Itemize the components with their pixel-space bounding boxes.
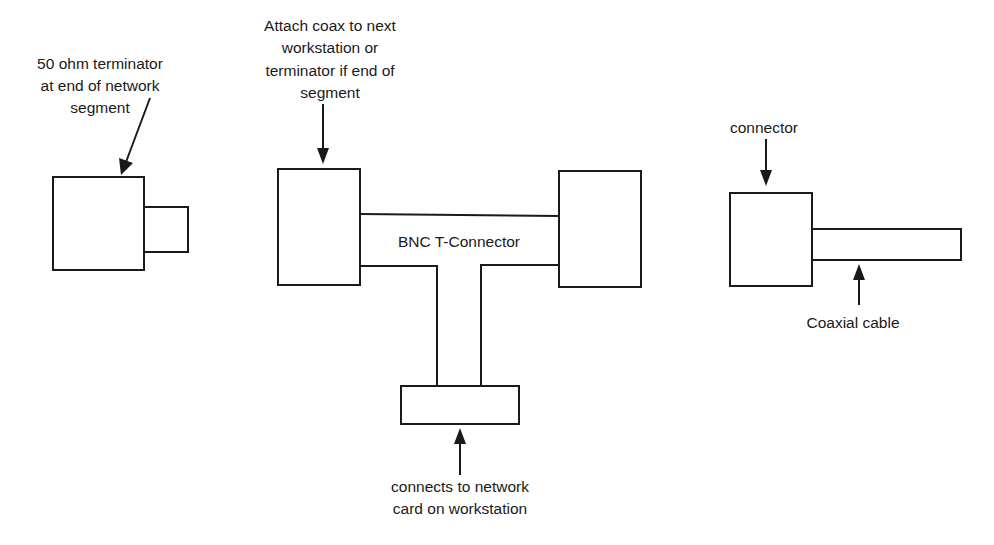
coaxial-cable — [812, 229, 961, 260]
t-connector-top-arrow-icon — [317, 104, 329, 164]
coaxial-cable-label: Coaxial cable — [806, 314, 899, 331]
connector-body — [730, 193, 812, 286]
cable-end-group: connector Coaxial cable — [730, 119, 961, 331]
terminator-label-line-2: at end of network — [41, 77, 160, 94]
connector-arrow-icon — [760, 139, 772, 186]
t-connector-top-label-line-4: segment — [300, 84, 360, 101]
terminator-group: 50 ohm terminator at end of network segm… — [37, 55, 188, 270]
t-connector-group: Attach coax to next workstation or termi… — [264, 17, 641, 517]
terminator-label-line-1: 50 ohm terminator — [37, 55, 163, 72]
coaxial-cable-arrow-icon — [853, 264, 865, 305]
connector-label: connector — [730, 119, 798, 136]
t-connector-bottom-arrow-icon — [454, 428, 466, 475]
t-connector-right-port — [559, 171, 641, 287]
terminator-body — [53, 177, 144, 270]
t-connector-top-label-line-1: Attach coax to next — [264, 17, 397, 34]
terminator-label-line-3: segment — [70, 99, 130, 116]
t-connector-center-label: BNC T-Connector — [398, 233, 520, 250]
t-connector-bottom-port — [401, 386, 519, 424]
terminator-plug — [144, 207, 188, 252]
t-connector-top-label-line-2: workstation or — [281, 39, 378, 56]
t-connector-bottom-label-line-2: card on workstation — [393, 500, 527, 517]
t-connector-left-port — [278, 169, 360, 285]
t-connector-bottom-label-line-1: connects to network — [391, 478, 529, 495]
t-connector-top-label-line-3: terminator if end of — [265, 62, 395, 79]
bnc-diagram: 50 ohm terminator at end of network segm… — [0, 0, 994, 545]
